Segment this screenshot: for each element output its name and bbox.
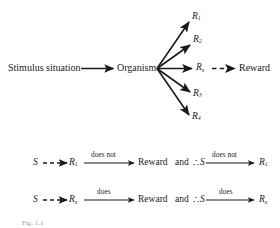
eq2-conjunction: and bbox=[175, 194, 189, 204]
response-label-rx: Rx bbox=[196, 62, 204, 73]
eq2-outcome: Reward bbox=[138, 194, 168, 204]
eq2-result-subscript: x bbox=[265, 199, 268, 205]
eq2-arrow1-label: does bbox=[97, 188, 111, 196]
figure-canvas: Reward --> Stimulus situation Organism R… bbox=[0, 0, 280, 228]
eq1-right-symbol: S bbox=[200, 157, 205, 167]
eq1-result-subscript: 1 bbox=[265, 161, 268, 167]
organism-label: Organism bbox=[117, 62, 156, 73]
response-subscript-r4: 4 bbox=[198, 115, 201, 121]
eq1-outcome: Reward bbox=[138, 157, 168, 167]
stimulus-situation-label: Stimulus situation bbox=[8, 62, 81, 73]
eq2-arrow2-label: does bbox=[219, 188, 233, 196]
response-subscript-r2: 2 bbox=[199, 38, 202, 44]
eq1-therefore-symbol: ∴ bbox=[193, 157, 199, 168]
eq2-therefore-symbol: ∴ bbox=[193, 194, 199, 205]
eq1-arrow1-label: does not bbox=[91, 151, 116, 159]
eq2-left-symbol: S bbox=[33, 194, 38, 204]
eq1-result: R1 bbox=[259, 157, 268, 167]
arrow-organism-to-r3 bbox=[157, 69, 190, 93]
eq1-response: R1 bbox=[69, 157, 78, 167]
arrow-organism-to-r1 bbox=[157, 22, 189, 69]
eq1-conjunction: and bbox=[175, 157, 189, 167]
eq1-left-symbol: S bbox=[33, 157, 38, 167]
eq2-response: Rx bbox=[69, 194, 77, 205]
response-label-r1: R1 bbox=[192, 11, 201, 21]
eq2-response-subscript: x bbox=[75, 199, 78, 205]
eq2-result: Rx bbox=[259, 194, 267, 205]
arrow-organism-to-r2 bbox=[157, 45, 190, 69]
eq2-right-symbol: S bbox=[200, 194, 205, 204]
response-subscript-r1: 1 bbox=[198, 15, 201, 21]
figure-caption: Fig. 1.1 bbox=[22, 219, 44, 227]
response-label-r2: R2 bbox=[193, 34, 202, 44]
reward-label: Reward bbox=[239, 62, 270, 73]
response-label-r3: R3 bbox=[193, 88, 202, 98]
arrow-organism-to-r4 bbox=[157, 69, 189, 116]
eq1-response-subscript: 1 bbox=[75, 161, 78, 167]
response-subscript-r3: 3 bbox=[199, 92, 202, 98]
eq1-arrow2-label: does not bbox=[212, 151, 237, 159]
response-label-r4: R4 bbox=[192, 111, 201, 121]
response-subscript-rx: x bbox=[202, 67, 205, 73]
